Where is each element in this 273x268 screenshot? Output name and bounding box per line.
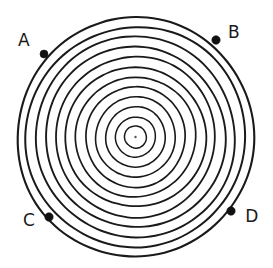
point-marker-c-icon[interactable] (45, 213, 53, 221)
center-marker-group (134, 136, 136, 138)
labelled-point-c[interactable]: C (23, 210, 53, 230)
point-label-a: A (18, 30, 30, 50)
labelled-point-b[interactable]: B (212, 22, 240, 44)
labelled-point-d[interactable]: D (227, 206, 259, 226)
point-label-c: C (23, 210, 35, 230)
labelled-point-a[interactable]: A (18, 30, 48, 58)
point-label-b: B (228, 22, 240, 42)
center-dot-icon (134, 136, 136, 138)
point-marker-a-icon[interactable] (40, 50, 48, 58)
figure-canvas: ABCD (0, 0, 273, 268)
concentric-circles-figure: ABCD (0, 0, 273, 268)
point-marker-b-icon[interactable] (212, 36, 220, 44)
point-marker-d-icon[interactable] (227, 207, 235, 215)
point-label-d: D (245, 206, 258, 226)
